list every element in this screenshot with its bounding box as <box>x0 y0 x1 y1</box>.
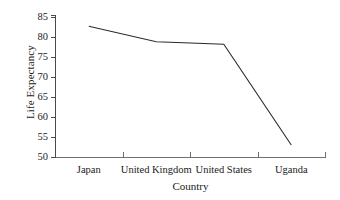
y-tick-55 <box>51 137 56 138</box>
y-tick-50 <box>51 157 56 158</box>
x-tick <box>123 152 124 158</box>
y-tick-label: 75 <box>8 52 48 62</box>
x-tick-label-united-kingdom: United Kingdom <box>121 164 192 176</box>
line-chart: Life Expectancy 5055606570758085 JapanUn… <box>0 0 340 200</box>
x-tick <box>258 152 259 158</box>
x-axis-right-cap <box>325 152 326 158</box>
y-tick-label: 80 <box>8 32 48 42</box>
y-axis-top-cap <box>51 15 56 16</box>
y-tick-60 <box>51 117 56 118</box>
y-tick-label: 60 <box>8 112 48 122</box>
x-tick-label-japan: Japan <box>77 164 101 176</box>
x-tick-label-uganda: Uganda <box>275 164 308 176</box>
y-tick-75 <box>51 57 56 58</box>
y-tick-label: 55 <box>8 132 48 142</box>
series-life-expectancy <box>89 26 291 145</box>
y-tick-label: 50 <box>8 152 48 162</box>
y-tick-65 <box>51 97 56 98</box>
x-tick-label-united-states: United States <box>196 164 252 176</box>
y-tick-label: 70 <box>8 72 48 82</box>
x-tick <box>190 152 191 158</box>
y-tick-label: 65 <box>8 92 48 102</box>
y-tick-80 <box>51 37 56 38</box>
y-tick-label: 85 <box>8 12 48 22</box>
x-axis-title: Country <box>55 180 326 193</box>
y-tick-70 <box>51 77 56 78</box>
y-tick-85 <box>51 17 56 18</box>
